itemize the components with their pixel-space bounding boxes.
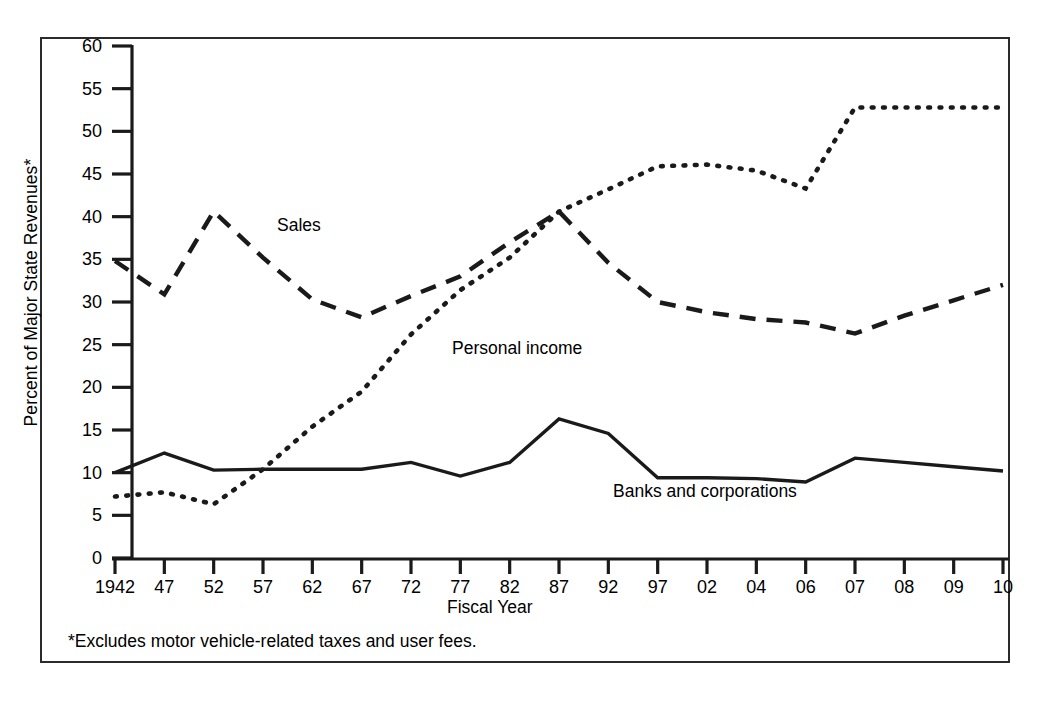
chart-footnote: *Excludes motor vehicle-related taxes an… — [68, 631, 477, 652]
x-tick-label: 72 — [401, 578, 421, 596]
x-tick-label: 04 — [746, 578, 766, 596]
y-tick-label: 45 — [58, 165, 102, 183]
y-tick-label: 35 — [58, 250, 102, 268]
series-label-sales: Sales — [277, 215, 321, 236]
x-tick-label: 87 — [549, 578, 569, 596]
y-axis-ticks — [112, 46, 132, 558]
x-tick-label: 77 — [450, 578, 470, 596]
y-axis-title: Percent of Major State Revenues* — [21, 123, 42, 463]
data-series-group — [115, 107, 1003, 504]
x-tick-label: 52 — [204, 578, 224, 596]
series-line-personal-income — [115, 107, 1003, 504]
x-tick-label: 47 — [154, 578, 174, 596]
x-tick-label: 62 — [302, 578, 322, 596]
x-tick-label: 67 — [352, 578, 372, 596]
y-tick-label: 5 — [58, 506, 102, 524]
series-label-banks-and-corporations: Banks and corporations — [613, 481, 797, 502]
axes — [112, 45, 1009, 559]
y-tick-label: 50 — [58, 122, 102, 140]
y-tick-label: 55 — [58, 80, 102, 98]
y-tick-label: 25 — [58, 336, 102, 354]
x-tick-label: 1942 — [95, 578, 135, 596]
x-tick-label: 06 — [796, 578, 816, 596]
x-tick-label: 08 — [894, 578, 914, 596]
series-line-sales — [115, 212, 1003, 334]
series-line-banks-and-corporations — [115, 419, 1003, 482]
y-tick-label: 20 — [58, 378, 102, 396]
y-tick-label: 0 — [58, 549, 102, 567]
x-tick-label: 92 — [598, 578, 618, 596]
x-tick-label: 09 — [944, 578, 964, 596]
x-axis-title: Fiscal Year — [447, 597, 533, 618]
x-tick-label: 07 — [845, 578, 865, 596]
y-tick-label: 60 — [58, 37, 102, 55]
y-tick-label: 30 — [58, 293, 102, 311]
x-tick-label: 02 — [697, 578, 717, 596]
y-tick-label: 10 — [58, 464, 102, 482]
chart-page: Percent of Major State Revenues* Fiscal … — [0, 0, 1043, 701]
x-tick-label: 97 — [648, 578, 668, 596]
x-tick-label: 82 — [500, 578, 520, 596]
x-tick-label: 10 — [993, 578, 1013, 596]
x-tick-label: 57 — [253, 578, 273, 596]
y-tick-label: 40 — [58, 208, 102, 226]
y-tick-label: 15 — [58, 421, 102, 439]
series-label-personal-income: Personal income — [452, 338, 582, 359]
x-axis-ticks — [115, 559, 1003, 574]
